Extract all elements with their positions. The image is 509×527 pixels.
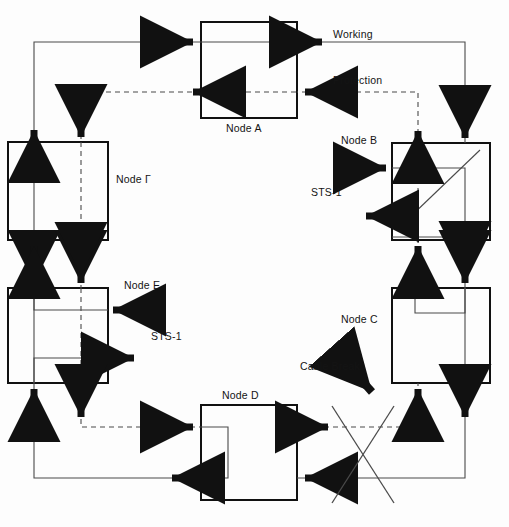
node-c-inner-box: [415, 288, 465, 313]
protection-label: Protection: [333, 74, 382, 86]
node-label-b: Node B: [341, 134, 377, 146]
working-label: Working: [333, 28, 373, 40]
node-label-f: Node Г: [116, 173, 151, 185]
node-b-inner-box: [392, 168, 465, 237]
node-label-e: Node E: [124, 279, 160, 291]
cable-break-marker[interactable]: [332, 406, 394, 503]
sts1-label-b: STS-1: [311, 186, 342, 198]
node-box-b[interactable]: [392, 143, 490, 240]
node-label-c: Node C: [341, 313, 378, 325]
cable-break-label: Cable Break: [300, 360, 360, 372]
node-d-inner-box: [201, 427, 228, 478]
ring-working-path: [34, 42, 465, 478]
diagram-canvas: Node A Node B Node C Node D Node E Node …: [0, 0, 509, 527]
protection-a-to-f: [81, 92, 201, 142]
node-e-inner-upper: [34, 288, 108, 310]
node-box-c[interactable]: [392, 288, 490, 383]
node-box-d[interactable]: [201, 405, 297, 500]
protection-e-to-d: [81, 383, 201, 427]
arrow-heads: [34, 42, 465, 478]
node-box-e[interactable]: [8, 288, 108, 383]
protection-d-to-c: [297, 383, 418, 427]
node-internal-details: [34, 150, 480, 478]
node-box-f[interactable]: [8, 142, 108, 240]
node-label-d: Node D: [222, 389, 259, 401]
node-box-a[interactable]: [201, 22, 297, 118]
node-e-inner-lower: [34, 358, 108, 383]
node-label-a: Node A: [226, 122, 262, 134]
diagram-svg: [0, 0, 509, 527]
sts1-label-e: STS-1: [151, 330, 182, 342]
